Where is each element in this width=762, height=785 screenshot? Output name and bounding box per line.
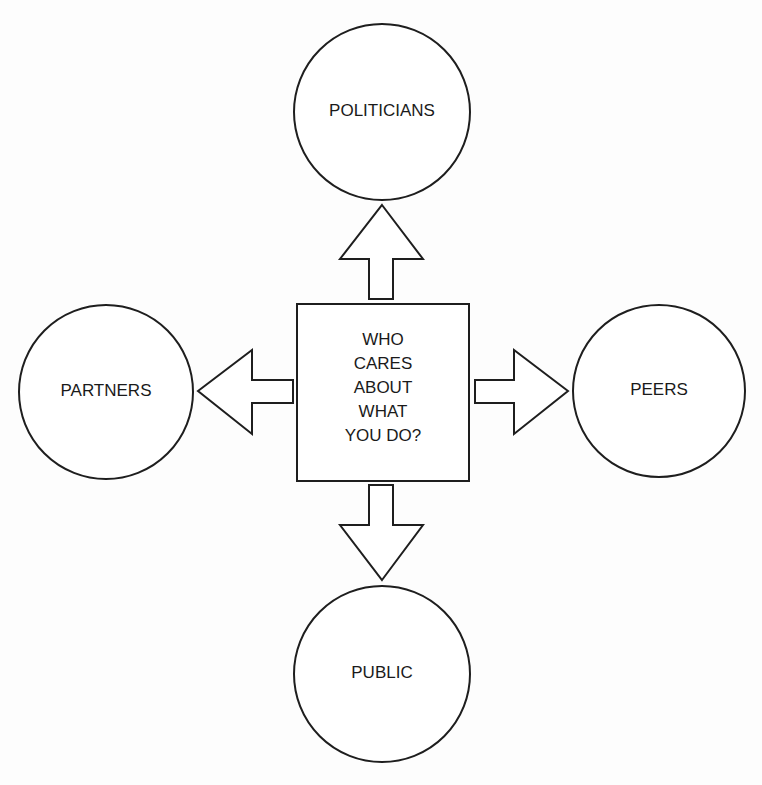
center-line-3: ABOUT bbox=[354, 378, 413, 397]
peers-label: PEERS bbox=[630, 380, 688, 399]
politicians-label: POLITICIANS bbox=[329, 101, 435, 120]
public-label: PUBLIC bbox=[351, 663, 412, 682]
center-line-1: WHO bbox=[362, 330, 404, 349]
node-peers: PEERS bbox=[573, 305, 745, 477]
node-politicians: POLITICIANS bbox=[294, 24, 470, 200]
center-line-5: YOU DO? bbox=[345, 426, 422, 445]
arrow-up-icon bbox=[340, 205, 423, 299]
stakeholder-diagram: WHO CARES ABOUT WHAT YOU DO? POLITICIANS… bbox=[0, 0, 762, 785]
node-partners: PARTNERS bbox=[19, 305, 193, 479]
center-line-2: CARES bbox=[354, 354, 413, 373]
arrow-down-icon bbox=[340, 485, 423, 580]
center-line-4: WHAT bbox=[359, 402, 408, 421]
partners-label: PARTNERS bbox=[60, 381, 151, 400]
node-public: PUBLIC bbox=[294, 586, 470, 762]
center-node: WHO CARES ABOUT WHAT YOU DO? bbox=[297, 304, 469, 481]
arrow-left-icon bbox=[198, 350, 293, 434]
arrow-right-icon bbox=[475, 350, 568, 434]
